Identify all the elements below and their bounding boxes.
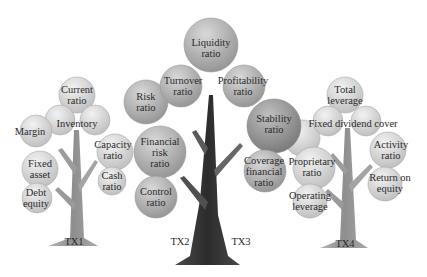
leaf-current-ratio: Current ratio <box>61 84 93 106</box>
leaf-profitability-ratio: Profitability ratio <box>218 75 269 97</box>
leaf-fixed-asset: Fixed asset <box>28 158 52 180</box>
leaf-risk-ratio: Risk ratio <box>136 91 155 113</box>
leaf-stability-ratio: Stability ratio <box>256 113 292 135</box>
tree-tx1-trunk <box>48 130 98 246</box>
tree-label-tx2: TX2 <box>170 236 189 247</box>
leaf-control-ratio: Control ratio <box>140 186 172 208</box>
ratio-tree-diagram: Current ratio Inventory Margin Fixed ass… <box>0 0 427 277</box>
tree-label-tx4: TX4 <box>335 238 354 249</box>
leaf-capacity-ratio: Capacity ratio <box>94 139 131 161</box>
tree-tx4-trunk <box>320 128 373 248</box>
leaf-proprietary-ratio: Proprietary ratio <box>288 156 335 178</box>
leaf-debt-equity: Debt equity <box>23 187 49 209</box>
leaf-coverage-financial-ratio: Coverage financial ratio <box>244 155 284 188</box>
leaf-margin: Margin <box>15 126 46 137</box>
leaf-activity-ratio: Activity ratio <box>374 139 408 161</box>
leaf-liquidity-ratio: Liquidity ratio <box>191 37 230 59</box>
tree-label-tx1: TX1 <box>64 236 83 247</box>
leaf-cash-ratio: Cash ratio <box>102 170 123 192</box>
leaf-return-on-equity: Return on equity <box>369 172 411 194</box>
leaf-financial-risk-ratio: Financial risk ratio <box>140 136 179 169</box>
tree-label-tx3: TX3 <box>231 236 250 247</box>
leaf-fixed-dividend-cover: Fixed dividend cover <box>308 118 397 129</box>
leaf-total-leverage: Total leverage <box>327 84 363 106</box>
leaf-inventory: Inventory <box>57 118 98 129</box>
leaf-turnover-ratio: Turnover ratio <box>164 75 203 97</box>
leaf-operating-leverage: Operating leverage <box>289 190 331 212</box>
